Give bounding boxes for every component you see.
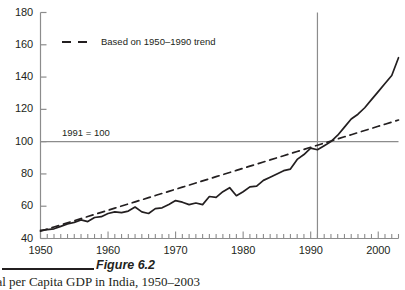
legend-entry-trend-label: Based on 1950–1990 trend xyxy=(101,36,216,47)
x-tick-label: 1990 xyxy=(283,244,339,256)
figure-number: Figure 6.2 xyxy=(96,258,155,272)
x-tick-label: 1970 xyxy=(148,244,204,256)
y-tick-label: 160 xyxy=(0,38,33,50)
figure-caption-text: Real per Capita GDP in India, 1950–2003 xyxy=(0,274,405,290)
caption-rule xyxy=(2,268,94,270)
y-tick-label: 180 xyxy=(0,6,33,18)
y-tick-label: 100 xyxy=(0,135,33,147)
y-tick-label: 60 xyxy=(0,199,33,211)
base-year-annotation: 1991 = 100 xyxy=(62,127,110,138)
y-tick-label: 120 xyxy=(0,102,33,114)
x-tick-label: 1960 xyxy=(80,244,136,256)
x-tick-label: 1950 xyxy=(13,244,69,256)
x-tick-label: 2000 xyxy=(350,244,405,256)
x-tick-label: 1980 xyxy=(215,244,271,256)
y-tick-label: 40 xyxy=(0,232,33,244)
y-tick-label: 80 xyxy=(0,167,33,179)
y-tick-label: 140 xyxy=(0,70,33,82)
series-line-actual xyxy=(41,58,399,231)
